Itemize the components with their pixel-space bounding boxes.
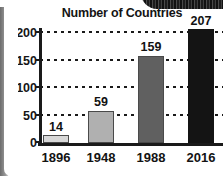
y-axis-line bbox=[39, 28, 42, 146]
bar-value-label-1896: 14 bbox=[40, 120, 72, 134]
chart-figure: Number of Countries 200 150 100 50 0 14 … bbox=[0, 0, 223, 176]
bar-1948 bbox=[88, 111, 114, 144]
x-axis-line bbox=[38, 143, 223, 146]
bar-value-label-1988: 159 bbox=[133, 40, 169, 54]
bar-2016 bbox=[188, 29, 214, 143]
bar-value-label-1948: 59 bbox=[85, 95, 117, 109]
page-edge-highlight bbox=[4, 0, 18, 176]
bar-1896 bbox=[43, 135, 69, 143]
x-axis-label-2016: 2016 bbox=[172, 150, 223, 165]
plot-area: 200 150 100 50 0 14 59 159 207 bbox=[40, 33, 223, 143]
bar-1988 bbox=[138, 56, 164, 144]
page-corner-artifact bbox=[141, 0, 223, 9]
